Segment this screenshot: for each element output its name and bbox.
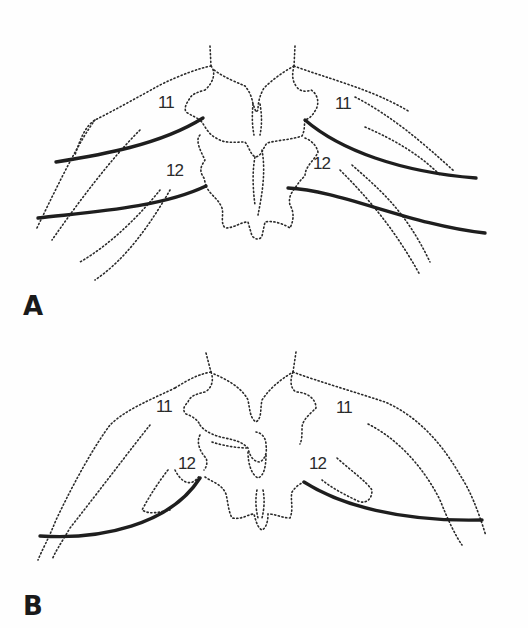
panel-b-label-11-right: 11 — [336, 399, 352, 416]
panel-a-label-11-right: 11 — [335, 95, 351, 112]
panel-a-label-12-right: 12 — [313, 155, 330, 172]
panel-b-label-12-left: 12 — [178, 455, 195, 472]
panel-b-drawing — [0, 0, 528, 628]
panel-b-letter: B — [23, 593, 43, 619]
panel-a-letter: A — [23, 293, 43, 319]
panel-b-vertebrae-outline — [38, 352, 486, 560]
panel-b-label-12-right: 12 — [309, 455, 326, 472]
panel-b-label-11-left: 11 — [156, 398, 172, 415]
figure-canvas: 11 11 12 12 11 11 12 12 A B — [0, 0, 528, 628]
panel-b-ribs — [40, 478, 482, 537]
panel-a-label-12-left: 12 — [166, 162, 183, 179]
panel-a-label-11-left: 11 — [158, 94, 174, 111]
